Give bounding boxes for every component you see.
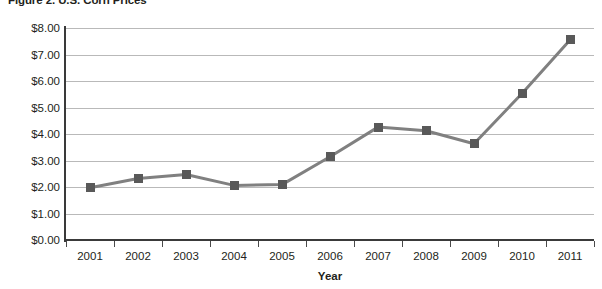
data-point-marker xyxy=(374,123,383,132)
data-point-marker xyxy=(326,152,335,161)
data-point-marker xyxy=(470,139,479,148)
data-point-marker xyxy=(230,181,239,190)
data-point-marker xyxy=(86,183,95,192)
data-point-marker xyxy=(518,89,527,98)
figure-container: Figure 2. U.S. Corn Prices $0.00$1.00$2.… xyxy=(0,0,602,289)
data-point-marker xyxy=(566,35,575,44)
x-axis-title: Year xyxy=(66,270,594,283)
data-point-marker xyxy=(134,174,143,183)
data-point-marker xyxy=(422,126,431,135)
series-line xyxy=(0,0,602,289)
data-point-marker xyxy=(182,170,191,179)
data-point-marker xyxy=(278,180,287,189)
